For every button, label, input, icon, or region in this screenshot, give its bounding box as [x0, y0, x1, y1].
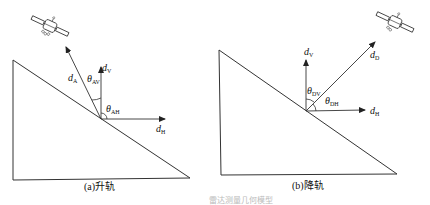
- label-theta-dh: θDH: [325, 96, 339, 107]
- label-theta-av: θAV: [87, 74, 100, 85]
- label-d-v-b: dV: [304, 47, 313, 58]
- satellite-icon: [373, 4, 418, 39]
- label-theta-ah: θAH: [106, 104, 120, 115]
- diagram-canvas: [0, 0, 430, 205]
- label-d-d: dD: [370, 50, 379, 61]
- label-theta-dv: θDV: [307, 86, 321, 97]
- label-d-a: dA: [68, 73, 77, 84]
- figure-caption: 雷达测量几何模型: [209, 197, 273, 205]
- label-d-v-a: dV: [102, 63, 111, 74]
- label-d-h-a: dH: [156, 124, 165, 135]
- caption-a: (a)升轨: [84, 182, 115, 192]
- panel-b-vectors: [306, 42, 375, 111]
- panel-a-slope-triangle: [13, 60, 190, 180]
- caption-b: (b)降轨: [292, 181, 324, 191]
- label-d-h-b: dH: [370, 106, 379, 117]
- satellite-icon: [28, 8, 73, 43]
